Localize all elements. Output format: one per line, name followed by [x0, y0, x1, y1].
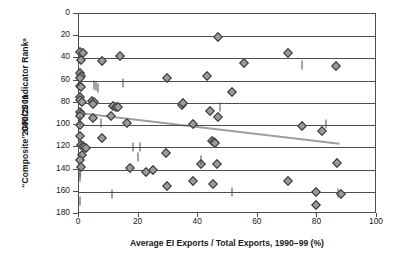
data-point — [208, 179, 218, 189]
y-tick-mark-40 — [73, 57, 78, 58]
data-point — [297, 121, 307, 131]
y-axis-label-group: “Composite” GRICS Indicator Rankᵃ 2000/2… — [0, 0, 46, 232]
trend-line — [79, 14, 375, 212]
x-tick-label-0: 0 — [63, 216, 93, 226]
data-point — [97, 133, 107, 143]
y-tick-mark-20 — [73, 35, 78, 36]
x-tick-mark-100 — [376, 213, 377, 217]
x-tick-label-80: 80 — [301, 216, 331, 226]
data-point — [205, 106, 215, 116]
data-point — [76, 120, 86, 130]
x-tick-mark-40 — [197, 213, 198, 217]
y-tick-mark-0 — [73, 13, 78, 14]
y-tick-label-140: 140 — [44, 163, 70, 173]
data-point — [162, 73, 172, 83]
data-point — [326, 120, 327, 129]
data-point — [76, 162, 86, 172]
data-point — [283, 48, 293, 58]
data-point — [161, 148, 171, 158]
data-point — [162, 181, 172, 191]
data-point — [125, 163, 135, 173]
data-point — [201, 155, 202, 164]
y-tick-mark-80 — [73, 102, 78, 103]
plot-area — [78, 13, 376, 213]
data-point — [232, 187, 233, 196]
y-tick-label-100: 100 — [44, 118, 70, 128]
data-point — [311, 187, 321, 197]
data-point — [212, 159, 222, 169]
data-point — [98, 84, 99, 93]
gridline-y-80 — [79, 103, 375, 104]
y-tick-label-0: 0 — [44, 7, 70, 17]
x-axis-label: Average EI Exports / Total Exports, 1990… — [78, 238, 376, 248]
data-point — [139, 143, 140, 152]
data-point — [76, 82, 86, 92]
x-tick-label-60: 60 — [242, 216, 272, 226]
y-axis-label-line2: 2000/2001 — [20, 55, 30, 175]
y-tick-mark-160 — [73, 191, 78, 192]
scatter-chart: “Composite” GRICS Indicator Rankᵃ 2000/2… — [0, 0, 393, 260]
data-point — [123, 78, 124, 87]
y-tick-label-80: 80 — [44, 96, 70, 106]
data-point — [95, 82, 96, 91]
y-tick-mark-120 — [73, 146, 78, 147]
y-tick-mark-100 — [73, 124, 78, 125]
data-point — [283, 176, 293, 186]
x-tick-label-20: 20 — [123, 216, 153, 226]
data-point — [220, 103, 221, 112]
data-point — [338, 188, 339, 197]
gridline-y-120 — [79, 147, 375, 148]
data-point — [101, 118, 102, 127]
data-point — [213, 112, 223, 122]
x-tick-mark-60 — [257, 213, 258, 217]
x-tick-label-40: 40 — [182, 216, 212, 226]
y-tick-label-20: 20 — [44, 29, 70, 39]
x-tick-mark-80 — [316, 213, 317, 217]
data-point — [97, 56, 107, 66]
data-point — [133, 143, 134, 152]
gridline-y-140 — [79, 170, 375, 171]
gridline-y-40 — [79, 58, 375, 59]
data-point — [115, 51, 125, 61]
data-point — [301, 61, 302, 70]
data-point — [79, 196, 80, 205]
data-point — [213, 32, 223, 42]
y-tick-label-60: 60 — [44, 74, 70, 84]
data-point — [111, 190, 112, 199]
data-point — [188, 176, 198, 186]
data-point — [79, 173, 80, 182]
data-point — [88, 113, 98, 123]
gridline-y-20 — [79, 36, 375, 37]
data-point — [106, 111, 116, 121]
data-point — [227, 87, 237, 97]
gridline-y-160 — [79, 192, 375, 193]
x-tick-mark-0 — [78, 213, 79, 217]
x-tick-mark-20 — [138, 213, 139, 217]
x-tick-label-100: 100 — [361, 216, 391, 226]
data-point — [79, 116, 80, 125]
y-tick-mark-60 — [73, 80, 78, 81]
data-point — [138, 153, 139, 162]
data-point — [311, 200, 321, 210]
data-point — [188, 119, 198, 129]
y-tick-label-160: 160 — [44, 185, 70, 195]
y-tick-label-120: 120 — [44, 140, 70, 150]
data-point — [332, 61, 342, 71]
y-tick-label-40: 40 — [44, 51, 70, 61]
data-point — [332, 158, 342, 168]
y-tick-mark-140 — [73, 169, 78, 170]
data-point — [122, 118, 132, 128]
